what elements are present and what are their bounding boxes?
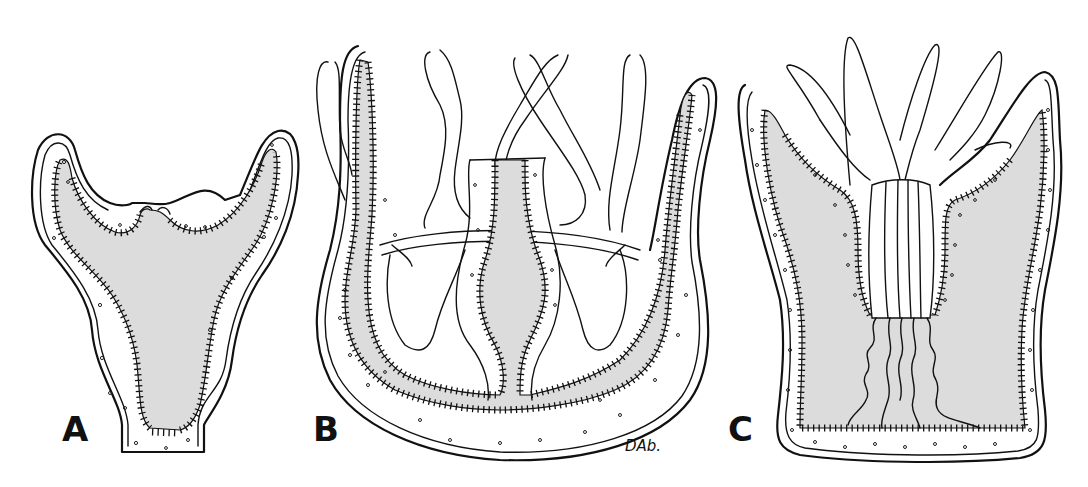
cnidarian-body-plan-figure: A B C DAb. xyxy=(0,0,1088,487)
panel-c-anthozoan xyxy=(739,37,1062,462)
panel-a-polyp xyxy=(32,131,298,452)
panel-label-c: C xyxy=(728,412,753,446)
medusa-gastrovascular-canal xyxy=(345,60,692,410)
polyp-gastrovascular-cavity xyxy=(55,149,277,430)
panel-b-medusa xyxy=(317,46,716,460)
artist-signature: DAb. xyxy=(625,437,661,455)
anthozoan-tentacles xyxy=(787,37,1011,185)
panel-label-a: A xyxy=(62,412,88,446)
figure-drawing xyxy=(0,0,1088,487)
panel-label-b: B xyxy=(313,412,339,446)
